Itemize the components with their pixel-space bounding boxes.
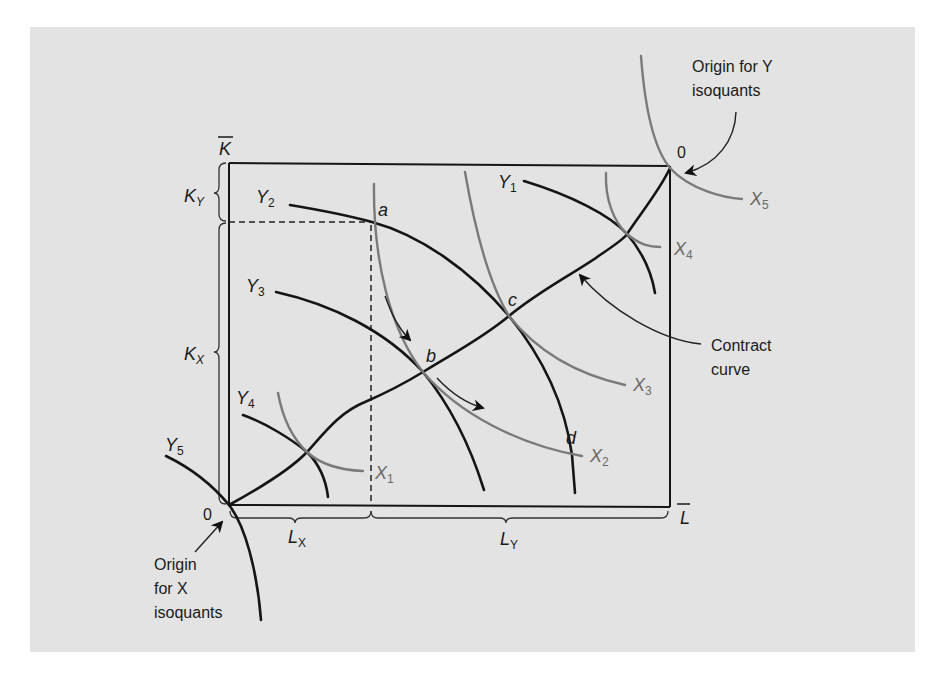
contract-curve-pointer — [580, 275, 701, 344]
y1-label: Y1 — [498, 172, 517, 195]
x-origin-label-line2: for X — [154, 580, 188, 597]
y3-label: Y3 — [246, 276, 265, 299]
point-c: c — [508, 290, 517, 310]
point-d: d — [566, 428, 577, 448]
k-brackets — [214, 163, 226, 504]
x-origin-label-line3: isoquants — [154, 604, 223, 621]
l-brackets — [230, 511, 668, 523]
x-origin-zero: 0 — [203, 506, 212, 523]
x1-isoquant — [278, 393, 363, 471]
y-origin-label-line1: Origin for Y — [692, 58, 773, 75]
x2-label: X2 — [589, 446, 609, 469]
point-b: b — [426, 346, 436, 366]
k-y-label: KY — [184, 186, 205, 209]
k-x-label: KX — [184, 344, 205, 367]
svg-text:curve: curve — [711, 361, 750, 378]
y5-label: Y5 — [165, 435, 184, 458]
point-a: a — [378, 200, 388, 220]
x5-label: X5 — [749, 189, 769, 212]
l-bar-label: L — [680, 508, 690, 528]
l-x-label: LX — [288, 527, 306, 550]
y2-label: Y2 — [256, 187, 275, 210]
x4-isoquant — [606, 173, 660, 247]
point-labels: a b c d — [378, 200, 577, 448]
y-origin-label-line2: isoquants — [692, 82, 761, 99]
x-isoquants — [278, 56, 742, 471]
dashed-guides — [229, 222, 371, 505]
l-y-label: LY — [500, 529, 518, 552]
x5-isoquant — [641, 56, 742, 199]
x1-label: X1 — [374, 463, 394, 486]
y3-isoquant — [276, 292, 484, 490]
x3-label: X3 — [632, 375, 652, 398]
edgeworth-box-diagram: K L KY KX LX LY 0 0 Origin for X isoquan… — [0, 0, 946, 681]
y4-label: Y4 — [236, 388, 255, 411]
x-origin-pointer — [195, 522, 222, 552]
y-origin-zero: 0 — [677, 144, 686, 161]
x3-isoquant — [465, 172, 625, 385]
x2-isoquant — [374, 184, 582, 456]
k-bar-label: K — [219, 139, 232, 159]
y1-isoquant — [524, 181, 655, 293]
svg-text:Contract: Contract — [711, 337, 772, 354]
x4-label: X4 — [673, 239, 693, 262]
y4-isoquant — [243, 415, 328, 497]
y-origin-pointer — [686, 112, 736, 173]
x-origin-label-line1: Origin — [154, 556, 197, 573]
contract-curve-label: Contract curve — [711, 337, 772, 378]
